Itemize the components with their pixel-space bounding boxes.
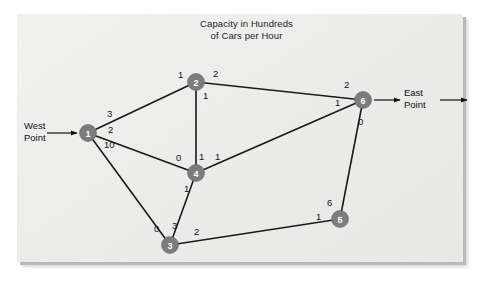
node-2-label: 2 xyxy=(193,78,198,88)
node-5-label: 5 xyxy=(337,215,342,225)
label-2-4-near2: 1 xyxy=(203,90,208,101)
node-4[interactable]: 4 xyxy=(188,165,205,182)
label-4-3-near3: 3 xyxy=(172,220,177,231)
edges-group xyxy=(88,82,363,245)
label-4-6-near6: 1 xyxy=(335,97,340,108)
label-1-4-near4: 0 xyxy=(176,152,181,163)
node-2[interactable]: 2 xyxy=(188,74,205,91)
edge-4-3 xyxy=(170,173,196,245)
label-1-2-near1: 3 xyxy=(107,108,112,119)
label-2-4-near4: 1 xyxy=(199,151,204,162)
node-3[interactable]: 3 xyxy=(162,237,179,254)
label-3-5-near3: 2 xyxy=(194,226,199,237)
edge-4-6 xyxy=(196,100,363,173)
label-2-6-near2: 2 xyxy=(213,68,218,79)
label-1-3-near3: 0 xyxy=(154,223,159,234)
label-5-6-near6: 0 xyxy=(358,116,363,127)
label-5-6-near5: 6 xyxy=(327,197,332,208)
east-point-label-line-2: Point xyxy=(404,99,426,110)
node-4-label: 4 xyxy=(193,169,198,179)
node-1-label: 1 xyxy=(85,129,90,139)
west-point-label-line-2: Point xyxy=(24,132,46,143)
edge-1-2 xyxy=(88,82,196,133)
label-1-4-near1: 2 xyxy=(108,124,113,135)
node-5[interactable]: 5 xyxy=(332,211,349,228)
network-graph: 1 2 3 4 5 6 3 1 xyxy=(0,0,493,285)
label-2-6-near6: 2 xyxy=(344,79,349,90)
node-1[interactable]: 1 xyxy=(80,125,97,142)
node-6-label: 6 xyxy=(360,96,365,106)
label-4-3-near4: 1 xyxy=(184,183,189,194)
node-6[interactable]: 6 xyxy=(355,92,372,109)
nodes-group: 1 2 3 4 5 6 xyxy=(80,74,372,254)
label-1-3-near1: 10 xyxy=(104,139,115,150)
label-1-2-near2: 1 xyxy=(178,69,183,80)
node-3-label: 3 xyxy=(167,241,172,251)
west-point-label-line-1: West xyxy=(24,120,46,131)
figure-root: Capacity in Hundreds of Cars per Hour xyxy=(0,0,493,285)
label-3-5-near5: 1 xyxy=(316,211,321,222)
east-point-label-line-1: East xyxy=(404,87,423,98)
label-4-6-near4: 1 xyxy=(215,151,220,162)
